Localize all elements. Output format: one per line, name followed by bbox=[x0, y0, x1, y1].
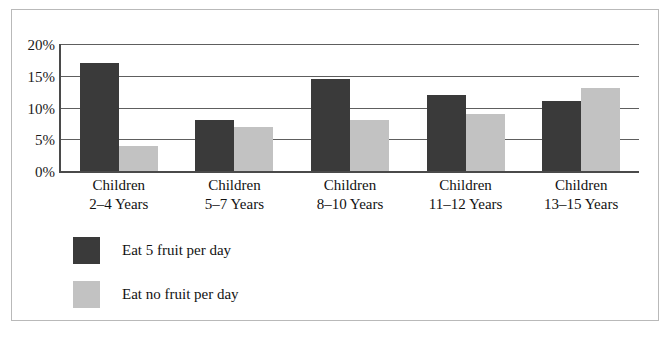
bar bbox=[427, 95, 466, 171]
x-category-label: Children8–10 Years bbox=[292, 176, 408, 214]
y-tick-label: 20% bbox=[28, 38, 56, 53]
legend-label: Eat no fruit per day bbox=[122, 286, 239, 303]
bar bbox=[119, 146, 158, 171]
x-category-label-line2: 5–7 Years bbox=[177, 195, 293, 214]
y-axis-tick-labels: 20% 15% 10% 5% 0% bbox=[12, 44, 55, 173]
x-category-label-line1: Children bbox=[208, 177, 261, 193]
x-category-label: Children11–12 Years bbox=[408, 176, 524, 214]
bar bbox=[80, 63, 119, 171]
y-tick-label: 0% bbox=[35, 165, 55, 180]
x-category-label-line1: Children bbox=[324, 177, 377, 193]
x-category-label: Children13–15 Years bbox=[523, 176, 639, 214]
bar bbox=[234, 127, 273, 171]
x-category-label-line1: Children bbox=[93, 177, 146, 193]
x-category-label-line1: Children bbox=[555, 177, 608, 193]
x-axis-category-labels: Children2–4 YearsChildren5–7 YearsChildr… bbox=[61, 176, 639, 214]
y-tick-label: 15% bbox=[28, 70, 56, 85]
bar bbox=[311, 79, 350, 171]
x-category-label: Children2–4 Years bbox=[61, 176, 177, 214]
x-category-label-line2: 11–12 Years bbox=[408, 195, 524, 214]
bar-group bbox=[523, 44, 639, 171]
y-tick-label: 5% bbox=[35, 133, 55, 148]
legend-item: Eat 5 fruit per day bbox=[73, 228, 239, 272]
bar bbox=[350, 120, 389, 171]
x-category-label-line2: 2–4 Years bbox=[61, 195, 177, 214]
x-category-label: Children5–7 Years bbox=[177, 176, 293, 214]
x-category-label-line2: 8–10 Years bbox=[292, 195, 408, 214]
chart-figure: 20% 15% 10% 5% 0% Children2–4 YearsChild… bbox=[11, 9, 659, 321]
bar-group bbox=[177, 44, 293, 171]
legend-swatch bbox=[73, 281, 100, 308]
bar-group bbox=[292, 44, 408, 171]
bar-groups bbox=[61, 44, 639, 171]
bar bbox=[466, 114, 505, 171]
plot-area bbox=[59, 44, 639, 173]
legend-label: Eat 5 fruit per day bbox=[122, 242, 231, 259]
x-category-label-line1: Children bbox=[439, 177, 492, 193]
bar-group bbox=[408, 44, 524, 171]
legend-item: Eat no fruit per day bbox=[73, 272, 239, 316]
legend-swatch bbox=[73, 237, 100, 264]
bar bbox=[542, 101, 581, 171]
y-tick-label: 10% bbox=[28, 102, 56, 117]
bar bbox=[195, 120, 234, 171]
bar-group bbox=[61, 44, 177, 171]
chart-legend: Eat 5 fruit per dayEat no fruit per day bbox=[73, 228, 239, 316]
bar bbox=[581, 88, 620, 171]
x-category-label-line2: 13–15 Years bbox=[523, 195, 639, 214]
